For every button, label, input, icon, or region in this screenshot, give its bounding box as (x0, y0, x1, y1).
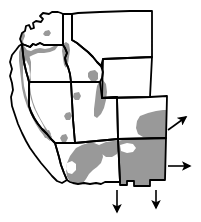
map-canvas (0, 0, 201, 222)
distribution-range-map (0, 0, 201, 222)
state-area-wy (102, 57, 152, 98)
arrow-northeast (168, 117, 186, 130)
